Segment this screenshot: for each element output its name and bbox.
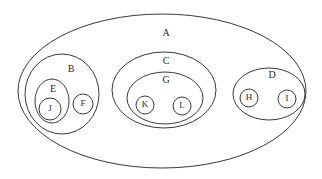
set-h: H — [240, 89, 258, 107]
set-e-label: E — [50, 83, 56, 94]
set-d-label: D — [268, 69, 275, 80]
set-e: E — [35, 79, 69, 123]
set-j-label: J — [48, 103, 52, 113]
set-k: K — [136, 96, 154, 114]
set-j: J — [39, 98, 61, 120]
set-g: G — [127, 72, 203, 124]
set-c: C — [112, 52, 216, 128]
set-i-label: I — [286, 93, 289, 103]
set-k-label: K — [142, 99, 149, 109]
set-f-label: F — [80, 98, 85, 108]
set-l-label: L — [179, 100, 185, 110]
set-l: L — [173, 97, 191, 115]
set-i: I — [278, 90, 296, 108]
set-h-label: H — [246, 92, 253, 102]
set-b-label: B — [68, 63, 75, 74]
set-a: A — [18, 14, 306, 168]
set-a-label: A — [162, 27, 170, 38]
set-c-label: C — [163, 55, 170, 66]
set-diagram: A B E J F C G K L D — [0, 0, 322, 179]
set-f: F — [73, 94, 93, 114]
set-g-label: G — [162, 74, 169, 85]
